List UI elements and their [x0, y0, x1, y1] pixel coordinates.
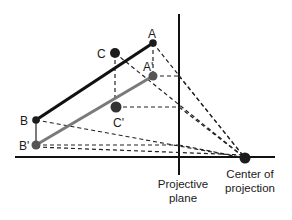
label-b: B: [20, 114, 28, 128]
ray-c-prime: [179, 107, 245, 158]
label-a: A: [148, 27, 156, 41]
point-b: [32, 116, 40, 124]
label-projective-plane-1: Projective: [158, 178, 209, 190]
ray-a-prime: [179, 76, 245, 158]
point-center-of-projection: [240, 153, 251, 164]
label-a-prime: A': [143, 60, 153, 74]
label-b-prime: B': [19, 139, 29, 153]
point-b-prime: [32, 141, 41, 150]
segment-ab: [36, 43, 153, 120]
label-c: C: [97, 47, 106, 61]
ray-b-prime-low: [36, 147, 245, 155]
projection-diagram: A A' C C' B B' Projective plane Center o…: [0, 0, 292, 220]
point-c-prime: [111, 102, 122, 113]
segment-a-prime-b-prime: [36, 76, 153, 145]
point-c: [110, 48, 120, 58]
label-center-1: Center of: [226, 168, 274, 180]
label-center-2: projection: [225, 182, 275, 194]
label-c-prime: C': [113, 116, 124, 130]
label-projective-plane-2: plane: [169, 192, 197, 204]
